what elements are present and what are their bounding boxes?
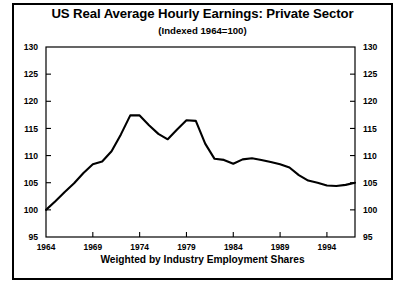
x-tick-label: 1979 [177,242,196,252]
data-series [46,115,355,209]
y-tick-label-left: 100 [24,205,39,215]
chart-footer-caption: Weighted by Industry Employment Shares [0,254,405,265]
y-tick-label-left: 105 [24,178,39,188]
chart-figure: US Real Average Hourly Earnings: Private… [0,0,405,287]
y-tick-label-left: 110 [24,151,38,161]
y-axis-left-ticks: 95100105110115120125130 [24,42,51,242]
y-tick-label-right: 115 [363,124,377,134]
y-tick-label-left: 125 [24,69,39,79]
x-tick-label: 1994 [318,242,337,252]
y-axis-right-ticks: 95100105110115120125130 [350,42,378,242]
x-tick-label: 1969 [83,242,102,252]
plot-frame [46,47,355,237]
y-tick-label-right: 120 [363,96,378,106]
x-axis-ticks: 1964196919741979198419891994 [37,232,337,252]
y-tick-label-left: 120 [24,96,39,106]
y-tick-label-right: 110 [363,151,377,161]
x-tick-label: 1964 [37,242,56,252]
y-tick-label-left: 95 [28,232,38,242]
y-tick-label-right: 95 [363,232,373,242]
y-tick-label-right: 105 [363,178,378,188]
y-tick-label-right: 130 [363,42,378,52]
x-tick-label: 1974 [130,242,149,252]
chart-plot-area: 95100105110115120125130 9510010511011512… [0,0,405,287]
x-tick-label: 1984 [224,242,243,252]
y-tick-label-left: 115 [24,124,38,134]
y-tick-label-right: 125 [363,69,378,79]
y-tick-label-right: 100 [363,205,378,215]
x-tick-label: 1989 [271,242,290,252]
y-tick-label-left: 130 [24,42,39,52]
